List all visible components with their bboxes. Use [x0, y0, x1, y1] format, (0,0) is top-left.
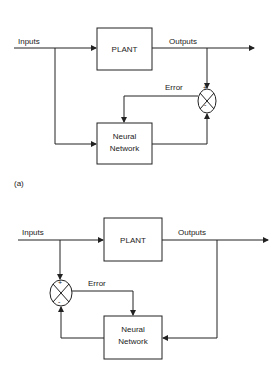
minus-sign-b: -: [58, 298, 60, 305]
nn-line1-a: Neural: [97, 131, 152, 143]
nn-line1-b: Neural: [104, 324, 162, 336]
plus-sign-a: +: [203, 84, 207, 91]
outputs-label-b: Outputs: [178, 229, 206, 237]
neural-network-label-b: Neural Network: [104, 324, 162, 348]
caption-a: (a): [14, 180, 24, 188]
minus-sign-a: -: [204, 101, 206, 108]
diagram-canvas: [0, 0, 278, 378]
inputs-label-b: Inputs: [22, 229, 44, 237]
nn-line2-a: Network: [97, 143, 152, 155]
error-label-b: Error: [88, 280, 106, 288]
plant-label-a: PLANT: [97, 44, 152, 56]
neural-network-label-a: Neural Network: [97, 131, 152, 155]
plant-label-b: PLANT: [104, 235, 162, 247]
plus-sign-b: +: [58, 279, 62, 286]
error-label-a: Error: [165, 84, 183, 92]
nn-line2-b: Network: [104, 336, 162, 348]
outputs-label-a: Outputs: [169, 38, 197, 46]
inputs-label-a: Inputs: [18, 38, 40, 46]
